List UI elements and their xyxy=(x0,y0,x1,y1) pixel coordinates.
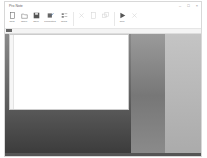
run-label: Run xyxy=(120,20,125,23)
new-button[interactable]: New xyxy=(7,10,17,23)
minimize-button[interactable]: – xyxy=(179,3,181,8)
app-window: Pro Note – □ × New Open Save Properties … xyxy=(4,1,202,157)
stop-icon xyxy=(131,12,138,19)
new-file-icon xyxy=(9,12,16,19)
line-gutter xyxy=(10,35,14,109)
separator xyxy=(73,12,74,26)
window-title: Pro Note xyxy=(9,4,23,8)
properties-button[interactable]: Properties xyxy=(43,10,57,23)
cut-icon xyxy=(78,12,85,19)
copy-icon xyxy=(102,12,109,19)
tools-icon xyxy=(61,12,68,19)
stop-button[interactable] xyxy=(129,10,139,19)
document-tab[interactable] xyxy=(6,29,12,32)
open-label: Open xyxy=(21,20,27,23)
separator xyxy=(114,12,115,26)
copy-button[interactable] xyxy=(100,10,110,19)
cut-button[interactable] xyxy=(76,10,86,19)
tools-label: Tools xyxy=(61,20,67,23)
folder-open-icon xyxy=(21,12,28,19)
properties-icon xyxy=(47,12,54,19)
properties-label: Properties xyxy=(44,20,55,23)
save-label: Save xyxy=(33,20,39,23)
title-bar: Pro Note – □ × xyxy=(5,2,201,10)
save-button[interactable]: Save xyxy=(31,10,41,23)
side-pane-right xyxy=(165,34,202,157)
side-pane-left xyxy=(131,34,165,157)
window-controls: – □ × xyxy=(179,3,198,8)
paste-button[interactable] xyxy=(88,10,98,19)
editor-pane[interactable] xyxy=(9,34,129,110)
run-button[interactable]: Run xyxy=(117,10,127,23)
tools-button[interactable]: Tools xyxy=(59,10,69,23)
new-label: New xyxy=(9,20,14,23)
open-button[interactable]: Open xyxy=(19,10,29,23)
close-button[interactable]: × xyxy=(196,3,198,8)
ribbon-toolbar: New Open Save Properties Tools xyxy=(5,10,201,29)
maximize-button[interactable]: □ xyxy=(187,3,189,8)
status-bar xyxy=(5,153,201,156)
save-icon xyxy=(33,12,40,19)
paste-icon xyxy=(90,12,97,19)
play-icon xyxy=(119,12,126,19)
workspace xyxy=(5,34,201,156)
